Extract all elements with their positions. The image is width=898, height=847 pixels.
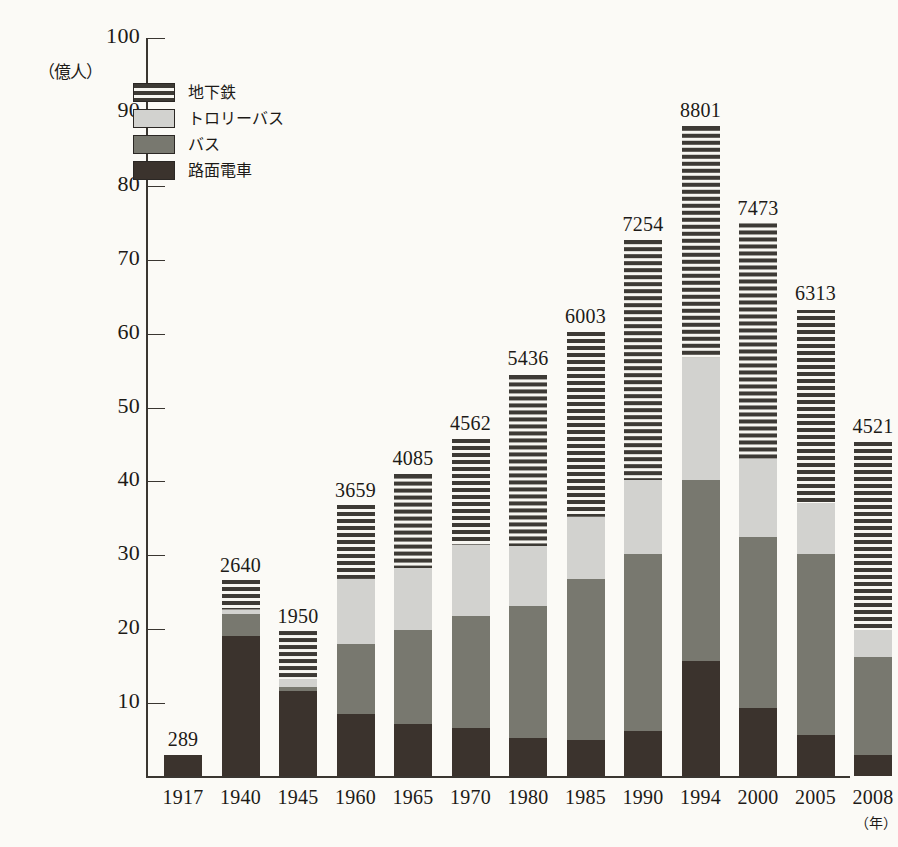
x-tick-label-2000: 2000 — [727, 786, 789, 809]
bar-segment-tram-1990 — [624, 731, 662, 776]
bar-segment-tram-1994 — [682, 661, 720, 776]
bar-group-1917: 289 — [164, 755, 202, 776]
bar-segment-tram-1970 — [452, 728, 490, 776]
bar-segment-subway-2008 — [854, 442, 892, 630]
bar-group-1990: 7254 — [624, 240, 662, 776]
x-tick-label-1917: 1917 — [152, 786, 214, 809]
bar-segment-subway-1985 — [567, 332, 605, 517]
x-tick-label-2008: 2008 — [842, 786, 898, 809]
bar-total-label-1980: 5436 — [497, 347, 559, 370]
bar-segment-tram-1965 — [394, 724, 432, 776]
bar-group-1980: 5436 — [509, 374, 547, 776]
x-tick-label-1990: 1990 — [612, 786, 674, 809]
bar-segment-subway-1980 — [509, 375, 547, 546]
bar-segment-trolleybus-1985 — [567, 517, 605, 579]
bar-total-label-1985: 6003 — [555, 305, 617, 328]
bar-group-1965: 4085 — [394, 474, 432, 776]
bar-group-1960: 3659 — [337, 506, 375, 776]
x-tick-label-1960: 1960 — [325, 786, 387, 809]
bar-segment-bus-1940 — [222, 614, 260, 635]
bar-segment-subway-1965 — [394, 474, 432, 569]
bar-total-label-1917: 289 — [152, 728, 214, 751]
bar-total-label-1990: 7254 — [612, 213, 674, 236]
bar-segment-trolleybus-2005 — [797, 503, 835, 555]
x-tick-label-1945: 1945 — [267, 786, 329, 809]
bar-total-label-1970: 4562 — [440, 412, 502, 435]
bar-segment-bus-1960 — [337, 644, 375, 713]
bar-segment-subway-1960 — [337, 505, 375, 579]
bar-segment-trolleybus-2000 — [739, 459, 777, 537]
bar-segment-tram-2008 — [854, 755, 892, 776]
bar-group-1945: 1950 — [279, 632, 317, 776]
bar-segment-bus-1994 — [682, 480, 720, 661]
bar-total-label-2008: 4521 — [842, 415, 898, 438]
bar-segment-tram-1945 — [279, 691, 317, 776]
bar-segment-tram-1917 — [164, 755, 202, 776]
bar-segment-bus-1965 — [394, 630, 432, 723]
bar-total-label-1945: 1950 — [267, 605, 329, 628]
bar-segment-bus-2008 — [854, 657, 892, 755]
x-axis-unit-label: （年） — [845, 812, 898, 832]
bar-segment-subway-1970 — [452, 439, 490, 545]
x-tick-label-1980: 1980 — [497, 786, 559, 809]
bar-segment-trolleybus-1965 — [394, 568, 432, 630]
bar-segment-tram-1960 — [337, 714, 375, 776]
bar-segment-tram-2005 — [797, 735, 835, 776]
bar-total-label-1965: 4085 — [382, 447, 444, 470]
bar-total-label-1960: 3659 — [325, 479, 387, 502]
bar-segment-bus-1945 — [279, 687, 317, 691]
bar-group-1970: 4562 — [452, 439, 490, 776]
bar-segment-trolleybus-1980 — [509, 546, 547, 606]
bar-segment-trolleybus-1990 — [624, 480, 662, 554]
x-tick-label-1994: 1994 — [670, 786, 732, 809]
bar-segment-subway-1945 — [279, 631, 317, 679]
bar-group-1985: 6003 — [567, 332, 605, 776]
x-tick-label-1970: 1970 — [440, 786, 502, 809]
bar-segment-bus-1990 — [624, 554, 662, 731]
bar-segment-trolleybus-2008 — [854, 630, 892, 657]
bar-segment-trolleybus-1945 — [279, 679, 317, 687]
bar-total-label-2005: 6313 — [785, 282, 847, 305]
bar-segment-subway-1994 — [682, 126, 720, 359]
bar-segment-bus-1970 — [452, 616, 490, 728]
bar-segment-bus-2000 — [739, 537, 777, 708]
bar-segment-trolleybus-1970 — [452, 545, 490, 616]
bar-group-1994: 8801 — [682, 126, 720, 776]
bar-segment-tram-1985 — [567, 740, 605, 776]
bar-segment-bus-1985 — [567, 579, 605, 740]
bar-segment-bus-1980 — [509, 606, 547, 738]
bar-segment-trolleybus-1940 — [222, 610, 260, 614]
bar-group-2008: 4521 — [854, 442, 892, 776]
bar-segment-subway-1940 — [222, 580, 260, 610]
bar-segment-trolleybus-1960 — [337, 579, 375, 645]
bar-segment-trolleybus-1994 — [682, 358, 720, 480]
bar-segment-subway-2000 — [739, 223, 777, 459]
bar-segment-subway-2005 — [797, 310, 835, 502]
x-tick-label-1940: 1940 — [210, 786, 272, 809]
bar-segment-tram-1980 — [509, 738, 547, 776]
x-tick-label-2005: 2005 — [785, 786, 847, 809]
bar-segment-tram-2000 — [739, 708, 777, 776]
bar-segment-subway-1990 — [624, 240, 662, 480]
bar-total-label-1940: 2640 — [210, 554, 272, 577]
bar-group-2000: 7473 — [739, 224, 777, 776]
bar-total-label-2000: 7473 — [727, 197, 789, 220]
x-tick-label-1965: 1965 — [382, 786, 444, 809]
bar-group-1940: 2640 — [222, 581, 260, 776]
bar-segment-tram-1940 — [222, 636, 260, 776]
bar-group-2005: 6313 — [797, 309, 835, 776]
bar-total-label-1994: 8801 — [670, 99, 732, 122]
bar-segment-bus-2005 — [797, 554, 835, 735]
x-tick-label-1985: 1985 — [555, 786, 617, 809]
